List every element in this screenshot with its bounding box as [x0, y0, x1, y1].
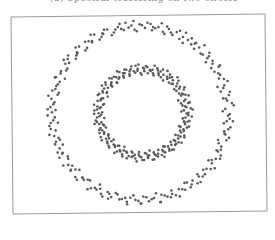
data-point [103, 117, 106, 120]
data-point [160, 193, 163, 196]
data-point [161, 154, 164, 157]
data-point [125, 150, 128, 153]
data-point [87, 178, 90, 181]
data-point [218, 77, 221, 80]
data-point [62, 164, 65, 167]
data-point [191, 115, 194, 118]
data-point [114, 192, 117, 195]
data-point [48, 125, 51, 128]
data-point [54, 109, 57, 112]
data-point [68, 62, 71, 65]
data-point [191, 179, 194, 182]
data-point [58, 147, 61, 150]
data-point [182, 36, 185, 39]
data-point [215, 158, 218, 161]
data-point [138, 151, 141, 154]
data-point [107, 87, 110, 90]
data-point [59, 72, 62, 75]
data-point [205, 167, 208, 170]
data-point [211, 162, 214, 165]
data-point [148, 149, 151, 152]
data-point [147, 155, 150, 158]
data-point [125, 157, 128, 160]
data-point [101, 195, 104, 198]
data-point [223, 78, 226, 81]
data-point [110, 83, 113, 86]
data-point [178, 188, 181, 191]
data-point [98, 38, 101, 41]
data-point [84, 40, 87, 43]
data-point [46, 108, 49, 111]
data-point [149, 70, 152, 73]
data-point [99, 183, 102, 186]
data-point [103, 133, 106, 136]
data-point [74, 168, 77, 171]
data-point [162, 68, 165, 71]
data-point [226, 99, 229, 102]
data-point [182, 117, 185, 120]
data-point [123, 68, 126, 71]
data-point [51, 89, 54, 92]
data-point [129, 196, 132, 199]
data-point [183, 86, 186, 89]
data-point [134, 199, 137, 202]
data-point [50, 122, 53, 125]
data-point [146, 22, 149, 25]
data-point [189, 186, 192, 189]
data-point [166, 70, 169, 73]
data-point [228, 94, 231, 97]
data-point [186, 121, 189, 124]
data-point [136, 69, 139, 72]
data-point [167, 145, 170, 148]
data-point [175, 90, 178, 93]
data-point [143, 67, 146, 70]
data-point [101, 90, 104, 93]
data-point [202, 168, 205, 171]
data-point [105, 84, 108, 87]
data-point [182, 93, 185, 96]
data-point [96, 100, 99, 103]
data-point [121, 198, 124, 201]
data-point [53, 101, 56, 104]
data-point [166, 195, 169, 198]
data-point [64, 77, 67, 80]
data-point [140, 202, 143, 205]
data-point [123, 76, 126, 79]
data-point [100, 35, 103, 38]
data-point [193, 42, 196, 45]
data-point [159, 70, 162, 73]
data-point [138, 23, 141, 26]
data-point [106, 28, 109, 31]
data-point [217, 142, 220, 145]
data-point [147, 72, 150, 75]
data-point [78, 45, 81, 48]
data-point [163, 194, 166, 197]
data-point [132, 194, 135, 197]
data-point [93, 33, 96, 36]
data-point [157, 26, 160, 29]
data-point [76, 52, 79, 55]
data-point [183, 134, 186, 137]
data-point [46, 114, 49, 117]
data-point [157, 69, 160, 72]
data-point [222, 87, 225, 90]
data-point [115, 76, 118, 79]
data-point [189, 101, 192, 104]
data-point [94, 186, 97, 189]
data-point [178, 38, 181, 41]
data-point [201, 175, 204, 178]
data-point [169, 141, 172, 144]
data-point [55, 140, 58, 143]
data-point [67, 164, 70, 167]
data-point [108, 146, 111, 149]
data-point [233, 104, 236, 107]
data-point [223, 84, 226, 87]
data-point [177, 141, 180, 144]
data-point [120, 28, 123, 31]
data-point [71, 164, 74, 167]
data-point [183, 109, 186, 112]
data-point [205, 61, 208, 64]
data-point [207, 159, 210, 162]
data-point [217, 139, 220, 142]
data-point [176, 76, 179, 79]
